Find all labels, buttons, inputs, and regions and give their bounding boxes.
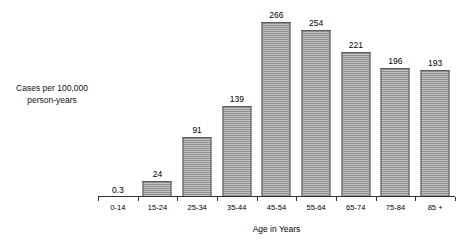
bar-slot: 91 bbox=[177, 6, 217, 197]
x-axis-tick bbox=[217, 197, 218, 201]
plot-area: 0.32491139266254221196193 bbox=[98, 6, 455, 197]
bar-value-label: 266 bbox=[269, 10, 283, 20]
bar bbox=[381, 68, 410, 197]
bar-slot: 221 bbox=[336, 6, 376, 197]
x-axis-tick bbox=[177, 197, 178, 201]
bar bbox=[421, 70, 450, 197]
x-axis-line bbox=[98, 196, 455, 197]
bar-value-label: 221 bbox=[349, 40, 363, 50]
bar-slot: 139 bbox=[217, 6, 257, 197]
bar bbox=[143, 181, 172, 197]
bar-slot: 0.3 bbox=[98, 6, 138, 197]
bar bbox=[222, 106, 251, 197]
bar bbox=[302, 30, 331, 197]
x-axis-tick-label: 15-24 bbox=[138, 203, 178, 213]
bar-value-label: 139 bbox=[230, 94, 244, 104]
bar-value-label: 196 bbox=[388, 56, 402, 66]
bar-chart: Cases per 100,000 person-years 0.3249113… bbox=[0, 0, 461, 248]
x-axis-tick-label: 75-84 bbox=[376, 203, 416, 213]
y-axis-label-line-2: person-years bbox=[6, 94, 98, 106]
x-axis-tick-label: 45-54 bbox=[257, 203, 297, 213]
bar-value-label: 24 bbox=[153, 169, 162, 179]
x-axis-tick-label: 65-74 bbox=[336, 203, 376, 213]
bar-slot: 196 bbox=[376, 6, 416, 197]
x-axis-tick bbox=[376, 197, 377, 201]
x-axis-tick bbox=[98, 197, 99, 201]
bar-value-label: 0.3 bbox=[112, 185, 124, 195]
bar-slot: 266 bbox=[257, 6, 297, 197]
x-axis-tick bbox=[336, 197, 337, 201]
x-axis-tick bbox=[257, 197, 258, 201]
bar-slot: 24 bbox=[138, 6, 178, 197]
x-axis-tick bbox=[296, 197, 297, 201]
x-axis-tick bbox=[138, 197, 139, 201]
x-axis-tick-label: 55-64 bbox=[296, 203, 336, 213]
bar-value-label: 91 bbox=[192, 125, 201, 135]
x-axis-tick-label: 35-44 bbox=[217, 203, 257, 213]
x-axis-tick-label: 0-14 bbox=[98, 203, 138, 213]
x-axis-title: Age in Years bbox=[98, 224, 455, 235]
x-axis-tick bbox=[455, 197, 456, 201]
bar-slot: 193 bbox=[415, 6, 455, 197]
y-axis-label-line-1: Cases per 100,000 bbox=[6, 82, 98, 94]
bar-value-label: 254 bbox=[309, 18, 323, 28]
bar bbox=[183, 137, 212, 197]
x-axis-tick bbox=[415, 197, 416, 201]
y-axis-label: Cases per 100,000 person-years bbox=[6, 82, 98, 106]
bar-slot: 254 bbox=[296, 6, 336, 197]
bar-value-label: 193 bbox=[428, 58, 442, 68]
x-axis-tick-label: 25-34 bbox=[177, 203, 217, 213]
bar bbox=[341, 52, 370, 197]
x-axis-tick-label: 85 + bbox=[415, 203, 455, 213]
bar bbox=[262, 22, 291, 197]
